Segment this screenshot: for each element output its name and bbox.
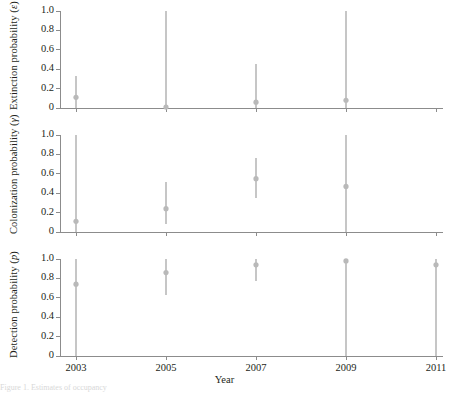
y-axis-label-text: Detection probability ( [8, 260, 19, 358]
y-tick-label: 0 [22, 101, 54, 112]
x-tick-label: 2009 [316, 362, 376, 373]
y-tick-label: 0.4 [22, 310, 54, 321]
x-tick-label: 2005 [136, 362, 196, 373]
y-tick-label: 0.6 [22, 167, 54, 178]
data-point-marker [343, 184, 348, 189]
data-point-marker [163, 104, 168, 109]
panel-colonization: Colonization probability (γ) 00.20.40.60… [0, 124, 449, 246]
data-point-marker [253, 176, 258, 181]
figure-container: Extinction probability (ε) 00.20.40.60.8… [0, 0, 449, 393]
data-point-marker [163, 206, 168, 211]
x-tick-label: 2007 [226, 362, 286, 373]
y-tick-label: 0.6 [22, 43, 54, 54]
data-point-marker [253, 100, 258, 105]
y-tick-label: 0 [22, 349, 54, 360]
plot-area-extinction [0, 0, 449, 122]
data-point-marker [73, 282, 78, 287]
y-axis-label-symbol: ε [8, 5, 19, 9]
y-axis-label-symbol: p [8, 255, 19, 260]
y-tick-label: 0.2 [22, 82, 54, 93]
data-point-marker [163, 270, 168, 275]
y-axis-label-paren: ) [8, 251, 19, 255]
panel-extinction: Extinction probability (ε) 00.20.40.60.8… [0, 0, 449, 122]
y-tick-label: 0.4 [22, 62, 54, 73]
y-axis-label-paren: ) [8, 114, 19, 118]
panel-detection: Detection probability (p) Year 00.20.40.… [0, 248, 449, 393]
data-point-marker [73, 95, 78, 100]
y-tick-label: 1.0 [22, 128, 54, 139]
y-tick-label: 0.6 [22, 291, 54, 302]
y-axis-label-paren: ) [8, 1, 19, 5]
y-axis-label-text: Extinction probability ( [8, 9, 19, 110]
y-axis-label-symbol: γ [8, 118, 19, 122]
plot-area-colonization [0, 124, 449, 246]
y-tick-label: 0.8 [22, 271, 54, 282]
data-point-marker [433, 262, 438, 267]
y-tick-label: 0.2 [22, 330, 54, 341]
y-tick-label: 1.0 [22, 4, 54, 15]
data-point-marker [343, 258, 348, 263]
y-axis-label-text: Colonization probability ( [8, 122, 19, 234]
data-point-marker [253, 262, 258, 267]
caption-fragment: Figure 1. Estimates of occupancy [0, 383, 449, 393]
y-tick-label: 0.8 [22, 147, 54, 158]
y-tick-label: 0.2 [22, 206, 54, 217]
x-tick-label: 2011 [406, 362, 449, 373]
data-point-marker [343, 98, 348, 103]
y-tick-label: 1.0 [22, 252, 54, 263]
y-tick-label: 0.4 [22, 186, 54, 197]
x-tick-label: 2003 [46, 362, 106, 373]
y-tick-label: 0 [22, 225, 54, 236]
data-point-marker [73, 219, 78, 224]
y-tick-label: 0.8 [22, 23, 54, 34]
